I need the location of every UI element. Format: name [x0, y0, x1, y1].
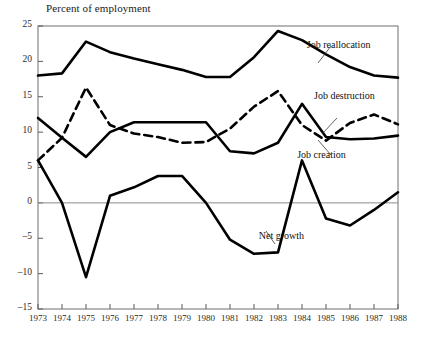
series-line-net-growth [38, 160, 398, 277]
y-tick-label: 20 [6, 54, 32, 64]
leader-line [322, 118, 337, 134]
annotation-net-growth: Net growth [259, 230, 304, 241]
y-tick-label: –10 [6, 267, 32, 277]
chart-axes [38, 26, 398, 309]
chart-container: Percent of employment 2520151050–5–10–15… [0, 0, 429, 337]
y-tick-label: 5 [6, 161, 32, 171]
y-tick-label: 10 [6, 125, 32, 135]
annotation-job-creation: Job creation [297, 149, 346, 160]
y-tick-label: 0 [6, 196, 32, 206]
chart-plot-svg [0, 0, 429, 337]
annotation-leader-lines [266, 46, 337, 244]
x-tick-label: 1988 [383, 313, 413, 323]
y-tick-label: –5 [6, 231, 32, 241]
annotation-job-destruction: Job destruction [314, 90, 375, 101]
y-tick-label: 25 [6, 19, 32, 29]
y-tick-label: 15 [6, 90, 32, 100]
y-tick-label: –15 [6, 302, 32, 312]
annotation-job-reallocation: Job reallocation [307, 39, 371, 50]
